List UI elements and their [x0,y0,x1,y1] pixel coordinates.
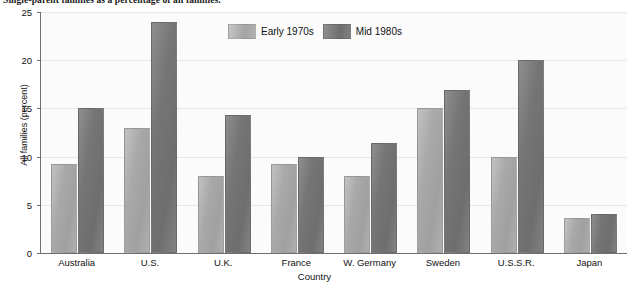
bar-australia-early-1970s [51,164,77,253]
x-axis-tick-label: Japan [576,257,602,268]
x-axis-tick-label: W. Germany [343,257,396,268]
legend-swatch-icon [228,24,256,39]
bar-sweden-mid-1980s [444,90,470,253]
y-axis-title: All families (percent) [19,45,29,205]
bar-sweden-early-1970s [417,108,443,253]
chart-legend: Early 1970s Mid 1980s [228,24,402,39]
y-axis-tick [37,253,41,254]
bar-france-early-1970s [271,164,297,253]
plot-area [40,12,627,253]
bar-u-k-mid-1980s [225,115,251,253]
bar-u-s-early-1970s [124,128,150,253]
y-axis-tick-label: 20 [0,55,32,66]
x-axis-tick-label: U.K. [214,257,232,268]
x-axis-tick-label: France [282,257,312,268]
y-axis-tick [37,108,41,109]
legend-swatch-icon [323,24,351,39]
x-axis-tick-label: U.S. [141,257,159,268]
x-axis-tick-label: Australia [58,257,95,268]
gridline [41,12,627,13]
bar-u-s-s-r-early-1970s [491,157,517,253]
bar-japan-mid-1980s [591,214,617,253]
y-axis-tick-label: 0 [0,248,32,259]
bar-w-germany-early-1970s [344,176,370,253]
legend-label: Early 1970s [261,26,314,37]
bar-w-germany-mid-1980s [371,143,397,253]
y-axis-tick [37,60,41,61]
bar-japan-early-1970s [564,218,590,253]
y-axis-tick [37,12,41,13]
x-axis-title: Country [0,271,629,282]
y-axis-tick-label: 5 [0,199,32,210]
bar-chart: Single-parent families as a percentage o… [0,0,629,283]
bar-france-mid-1980s [298,157,324,253]
y-axis-tick [37,157,41,158]
y-axis-tick-label: 10 [0,151,32,162]
bar-u-k-early-1970s [198,176,224,253]
y-axis-tick [37,205,41,206]
x-axis-tick-label: Sweden [426,257,460,268]
x-axis-tick-label: U.S.S.R. [498,257,535,268]
bar-u-s-mid-1980s [151,22,177,253]
y-axis-tick-label: 25 [0,7,32,18]
chart-title: Single-parent families as a percentage o… [3,0,221,5]
bar-u-s-s-r-mid-1980s [518,60,544,253]
y-axis-tick-label: 15 [0,103,32,114]
legend-item-early-1970s: Early 1970s [228,24,314,39]
legend-label: Mid 1980s [356,26,402,37]
bar-australia-mid-1980s [78,108,104,253]
legend-item-mid-1980s: Mid 1980s [323,24,402,39]
